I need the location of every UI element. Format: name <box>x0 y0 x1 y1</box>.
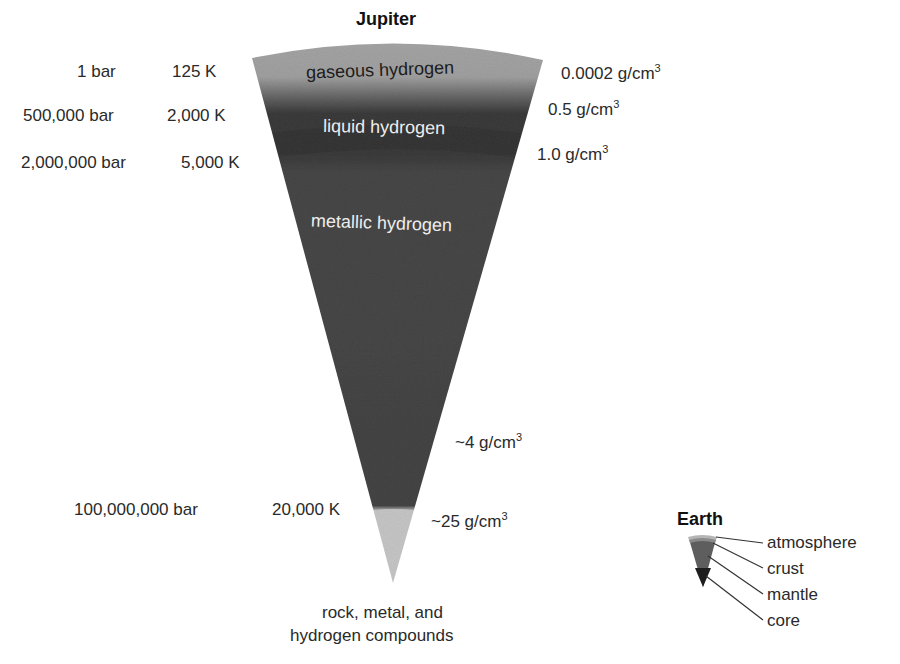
temperature-label: 125 K <box>172 62 216 82</box>
core-leader <box>706 576 763 620</box>
earth-layer-crust: crust <box>767 559 804 579</box>
pressure-label: 1 bar <box>77 62 116 82</box>
earth-wedge <box>688 535 763 620</box>
pressure-label: 500,000 bar <box>23 106 114 126</box>
density-label: 0.5 g/cm3 <box>548 100 619 120</box>
atmosphere-leader <box>716 537 763 543</box>
core-label-line2: hydrogen compounds <box>290 626 454 646</box>
pressure-label: 100,000,000 bar <box>74 500 198 520</box>
temperature-label: 2,000 K <box>167 106 226 126</box>
density-label: 1.0 g/cm3 <box>537 145 608 165</box>
mantle-leader <box>708 556 763 594</box>
density-label: ~4 g/cm3 <box>455 433 522 453</box>
earth-layer-mantle: mantle <box>767 585 818 605</box>
temperature-label: 20,000 K <box>272 500 340 520</box>
density-label: 0.0002 g/cm3 <box>561 64 661 84</box>
earth-layer-atmosphere: atmosphere <box>767 533 857 553</box>
layer-label-liquid: liquid hydrogen <box>323 116 445 139</box>
temperature-label: 5,000 K <box>181 153 240 173</box>
pressure-label: 2,000,000 bar <box>21 153 126 173</box>
core-label-line1: rock, metal, and <box>322 603 443 623</box>
earth-title: Earth <box>677 509 723 530</box>
density-label: ~25 g/cm3 <box>431 512 508 532</box>
jupiter-wedge <box>0 0 900 664</box>
jupiter-title: Jupiter <box>356 9 416 30</box>
core-region <box>360 509 426 600</box>
earth-layer-core: core <box>767 611 800 631</box>
